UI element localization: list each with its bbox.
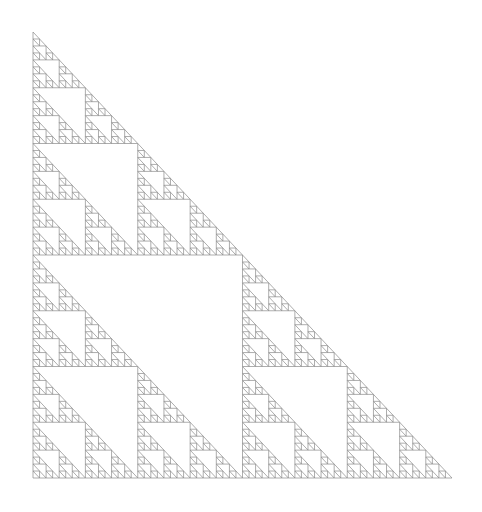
sierpinski-triangle-svg bbox=[0, 0, 482, 512]
fractal-canvas bbox=[0, 0, 482, 512]
